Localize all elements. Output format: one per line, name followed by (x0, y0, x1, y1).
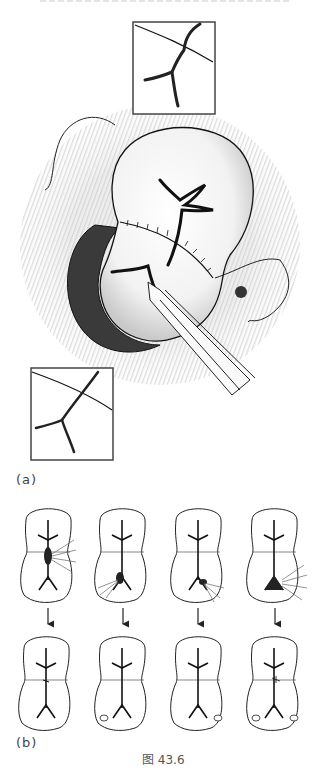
panel-b-illustration (0, 500, 327, 735)
bottom-left-inset (31, 368, 113, 460)
top-inset (133, 22, 215, 114)
panel-label-b: (b) (16, 735, 37, 750)
figure-caption: 图 43.6 (142, 750, 185, 767)
panel-label-a: (a) (16, 472, 37, 487)
panel-a-illustration (0, 0, 327, 470)
